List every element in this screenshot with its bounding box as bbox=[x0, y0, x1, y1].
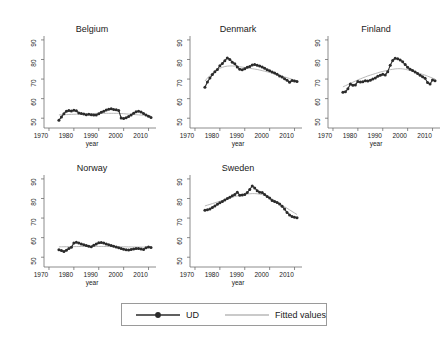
ytick-label: 90 bbox=[314, 40, 321, 47]
data-point bbox=[67, 109, 70, 112]
ytick-label: 80 bbox=[176, 59, 183, 66]
data-point bbox=[341, 91, 344, 94]
xtick-label: 2000 bbox=[104, 271, 128, 279]
data-point bbox=[233, 62, 236, 65]
data-point bbox=[77, 111, 80, 114]
data-point bbox=[110, 107, 113, 110]
ytick-label: 90 bbox=[176, 40, 183, 47]
data-point bbox=[384, 73, 387, 76]
data-point bbox=[248, 188, 251, 191]
data-point bbox=[406, 66, 409, 69]
figure-small-multiples-union-density: Belgium506070809019701980199020002010yea… bbox=[0, 0, 447, 344]
data-point bbox=[251, 63, 254, 66]
xaxis-title: year bbox=[36, 279, 148, 287]
ytick-label: 90 bbox=[176, 179, 183, 186]
data-point bbox=[211, 73, 214, 76]
data-point bbox=[142, 112, 145, 115]
xtick-label: 1990 bbox=[225, 271, 249, 279]
data-point bbox=[296, 80, 299, 83]
data-point bbox=[248, 65, 251, 68]
legend-entry-ud: UD bbox=[135, 304, 199, 325]
ytick-label: 80 bbox=[30, 198, 37, 205]
data-point bbox=[399, 58, 402, 61]
panel-title-finland: Finland bbox=[320, 24, 432, 35]
panel-title-sweden: Sweden bbox=[182, 163, 294, 174]
plot-svg-sweden bbox=[182, 175, 304, 277]
data-point bbox=[236, 65, 239, 68]
data-point bbox=[213, 204, 216, 207]
xtick-label: 1970 bbox=[29, 132, 53, 140]
data-point bbox=[389, 64, 392, 67]
data-point bbox=[434, 79, 437, 82]
plot-area-belgium bbox=[36, 36, 148, 128]
panel-norway: Norway506070809019701980199020002010year bbox=[36, 163, 148, 283]
xtick-label: 1970 bbox=[313, 132, 337, 140]
xaxis-title: year bbox=[182, 279, 294, 287]
data-point bbox=[263, 193, 266, 196]
data-point bbox=[122, 248, 125, 251]
data-point bbox=[354, 83, 357, 86]
data-point bbox=[203, 86, 206, 89]
data-point bbox=[60, 116, 63, 119]
data-point bbox=[283, 208, 286, 211]
data-point bbox=[386, 70, 389, 73]
ytick-label: 70 bbox=[30, 79, 37, 86]
plot-area-denmark bbox=[182, 36, 294, 128]
data-point bbox=[253, 186, 256, 189]
xtick-label: 2010 bbox=[129, 271, 153, 279]
plot-svg-belgium bbox=[36, 36, 158, 138]
data-point bbox=[256, 189, 259, 192]
xtick-label: 1980 bbox=[200, 132, 224, 140]
data-point bbox=[221, 62, 224, 65]
data-point bbox=[127, 248, 130, 251]
data-point bbox=[137, 247, 140, 250]
data-point bbox=[414, 71, 417, 74]
xtick-label: 1970 bbox=[175, 132, 199, 140]
data-point bbox=[75, 109, 78, 112]
data-point bbox=[281, 205, 284, 208]
ytick-label: 60 bbox=[30, 238, 37, 245]
legend-label-ud: UD bbox=[186, 310, 199, 320]
ytick-label: 60 bbox=[176, 99, 183, 106]
data-point bbox=[288, 213, 291, 216]
data-point bbox=[228, 196, 231, 199]
data-point bbox=[276, 201, 279, 204]
data-point bbox=[72, 109, 75, 112]
data-point bbox=[150, 246, 153, 249]
data-point bbox=[251, 184, 254, 187]
xtick-label: 2010 bbox=[413, 132, 437, 140]
data-point bbox=[356, 80, 359, 83]
ytick-label: 80 bbox=[176, 198, 183, 205]
data-point bbox=[80, 112, 83, 115]
ytick-label: 70 bbox=[176, 218, 183, 225]
ytick-label: 60 bbox=[30, 99, 37, 106]
data-point bbox=[140, 110, 143, 113]
data-point bbox=[62, 112, 65, 115]
data-point bbox=[226, 56, 229, 59]
xtick-label: 2000 bbox=[250, 132, 274, 140]
xtick-label: 1980 bbox=[200, 271, 224, 279]
data-point bbox=[346, 87, 349, 90]
data-point bbox=[281, 76, 284, 79]
xaxis-title: year bbox=[320, 140, 432, 148]
data-point bbox=[65, 249, 68, 252]
xtick-label: 1980 bbox=[54, 271, 78, 279]
data-point bbox=[120, 247, 123, 250]
data-point bbox=[296, 216, 299, 219]
xtick-label: 1980 bbox=[54, 132, 78, 140]
data-point bbox=[429, 82, 432, 85]
xtick-label: 1990 bbox=[79, 271, 103, 279]
ytick-label: 50 bbox=[30, 257, 37, 264]
ytick-label: 80 bbox=[314, 59, 321, 66]
ytick-label: 50 bbox=[176, 257, 183, 264]
plot-svg-finland bbox=[320, 36, 442, 138]
xtick-label: 1990 bbox=[225, 132, 249, 140]
data-point bbox=[291, 79, 294, 82]
data-point bbox=[231, 61, 234, 64]
ytick-label: 50 bbox=[314, 118, 321, 125]
plot-area-norway bbox=[36, 175, 148, 267]
data-point bbox=[135, 110, 138, 113]
panel-sweden: Sweden506070809019701980199020002010year bbox=[182, 163, 294, 283]
legend-key-fitted-icon bbox=[224, 306, 270, 324]
xtick-label: 1980 bbox=[338, 132, 362, 140]
